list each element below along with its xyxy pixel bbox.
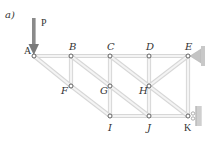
load-label: P — [41, 17, 47, 28]
roller-support-icon — [191, 106, 201, 126]
node-label-I: I — [107, 122, 113, 133]
member-C-H — [110, 56, 149, 86]
panel-label: a) — [5, 9, 15, 20]
node-E — [186, 54, 190, 58]
member-B-G — [71, 56, 110, 86]
node-G — [108, 84, 112, 88]
node-label-G: G — [100, 85, 108, 96]
node-C — [108, 54, 112, 58]
node-label-J: J — [145, 122, 152, 133]
node-label-D: D — [145, 41, 154, 52]
node-label-K: K — [184, 122, 192, 133]
member-H-K — [149, 86, 188, 116]
node-A — [32, 54, 36, 58]
node-label-H: H — [138, 85, 148, 96]
node-D — [147, 54, 151, 58]
node-label-A: A — [24, 45, 32, 56]
node-label-B: B — [68, 41, 76, 52]
node-J — [147, 114, 151, 118]
member-A-F — [34, 56, 71, 86]
node-I — [108, 114, 112, 118]
node-label-C: C — [107, 41, 115, 52]
member-H-E — [149, 56, 188, 86]
node-K — [186, 114, 190, 118]
node-B — [69, 54, 73, 58]
node-label-F: F — [60, 85, 69, 96]
truss-diagram: a) P ABCDEFGHIJK — [0, 0, 211, 148]
node-F — [69, 84, 73, 88]
node-label-E: E — [184, 41, 193, 52]
